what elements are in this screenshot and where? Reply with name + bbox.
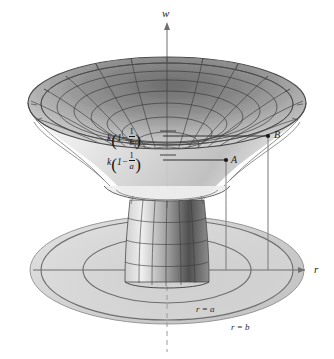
level-b-denominator: b	[129, 138, 135, 147]
level-b-one: 1	[117, 133, 122, 143]
level-a-fraction: 1a	[129, 151, 135, 170]
point-B-dot	[266, 134, 270, 138]
w-axis-arrowhead	[164, 22, 170, 30]
figure-root: r w	[0, 0, 334, 359]
r-axis-label: r	[314, 263, 319, 275]
level-a-label: k(1−1a)	[107, 151, 141, 173]
point-A-dot	[224, 158, 228, 162]
level-b-fraction: 1b	[129, 127, 135, 146]
funnel-bowl	[28, 57, 306, 208]
level-a-minus: −	[122, 157, 128, 167]
level-b-label: k(1−1b)	[107, 127, 141, 149]
bowl-lower-lip	[104, 186, 230, 201]
level-b-minus: −	[122, 133, 128, 143]
funnel-figure: r w	[0, 0, 334, 359]
funnel-neck	[125, 200, 209, 288]
w-axis-label: w	[162, 7, 170, 19]
ring-b-label: r = b	[231, 322, 250, 332]
point-B-label: B	[274, 129, 280, 140]
level-a-numerator: 1	[129, 151, 135, 160]
point-A-label: A	[230, 154, 238, 165]
level-b-numerator: 1	[129, 127, 135, 136]
level-a-close-paren: )	[135, 155, 141, 174]
level-a-one: 1	[117, 157, 122, 167]
ring-a-label: r = a	[196, 304, 215, 314]
level-b-close-paren: )	[135, 131, 141, 150]
level-a-denominator: a	[129, 162, 135, 171]
